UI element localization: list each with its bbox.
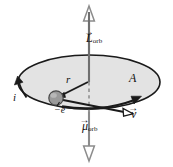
vector-arrow-icon: → xyxy=(84,27,94,37)
vector-arrow-icon: → xyxy=(80,115,90,125)
label-magnetic-moment-subscript: orb xyxy=(88,125,98,133)
label-magnetic-moment: → μ orb xyxy=(82,120,98,133)
label-current: i xyxy=(13,92,16,103)
axis-bottom-arrowhead-icon xyxy=(84,146,95,161)
label-angular-momentum: → L orb xyxy=(86,32,102,45)
label-charge: −e xyxy=(54,105,65,115)
label-magnetic-moment-symbol-group: → μ xyxy=(82,120,88,132)
electron-sphere-highlight xyxy=(50,93,56,98)
label-angular-momentum-symbol-group: → L xyxy=(86,32,93,44)
label-velocity: → v xyxy=(131,108,136,120)
physics-figure-orbital-magnetic-moment: → L orb → μ orb A r i −e → v xyxy=(0,0,173,167)
label-area: A xyxy=(129,72,136,84)
label-velocity-symbol-group: → v xyxy=(131,108,136,120)
label-angular-momentum-subscript: orb xyxy=(93,37,103,45)
vector-arrow-icon: → xyxy=(128,103,138,113)
label-radius: r xyxy=(66,74,70,85)
